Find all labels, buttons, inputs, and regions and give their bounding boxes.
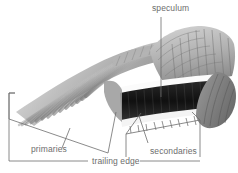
label-speculum: speculum — [152, 4, 189, 13]
label-trailing-edge: trailing edge — [92, 157, 140, 166]
label-secondaries: secondaries — [150, 147, 197, 156]
tertials — [104, 81, 122, 122]
wing-anatomy-figure: speculum primaries trailing edge seconda… — [0, 0, 238, 173]
label-primaries: primaries — [31, 145, 67, 154]
wing-body — [16, 26, 236, 133]
